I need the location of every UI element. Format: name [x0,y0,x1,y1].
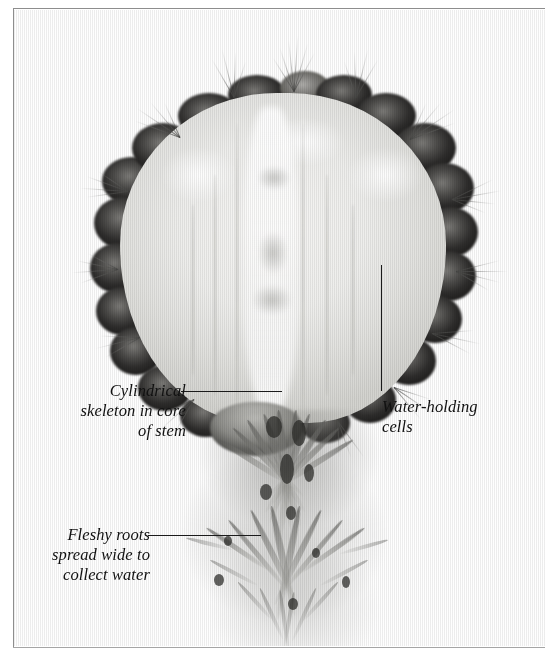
fleshy-root-mass [164,410,414,646]
root-shadow [312,548,320,558]
medulla-blob [250,161,298,195]
root-shadow [292,420,306,446]
rim-highlight [330,135,440,215]
frame-rule-top [13,8,545,9]
label-fleshy-roots: Fleshy roots spread wide to collect wate… [6,525,150,585]
vascular-strand [214,175,216,395]
label-cylindrical-skeleton: Cylindrical skeleton in core of stem [26,381,186,441]
root-shadow [266,416,282,438]
medulla-blob [252,223,294,283]
root-shadow [304,464,314,482]
root-shadow [260,484,272,500]
vascular-strand [302,123,304,413]
vascular-strand [192,205,194,375]
label-water-holding-cells: Water-holding cells [382,397,532,437]
vascular-strand [236,123,238,413]
vascular-strand [326,175,328,395]
root-shadow [342,576,350,588]
medulla-blob [244,279,300,321]
root-shadow [288,598,298,610]
frame-rule-bottom [13,647,545,648]
figure-page: Cylindrical skeleton in core of stem Wat… [0,0,545,659]
root-shadow [224,536,232,546]
vascular-strand [352,205,354,375]
root-shadow [286,506,296,520]
root-shadow [280,454,294,484]
leader-line-fleshy-roots [148,535,261,536]
leader-line-cylindrical-skeleton [181,391,282,392]
root-shadow [214,574,224,586]
leader-line-water-holding-cells [381,265,382,391]
